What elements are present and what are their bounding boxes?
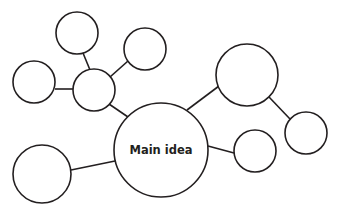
- edge-main-to-right-large: [187, 86, 219, 110]
- node-left: [13, 61, 55, 103]
- edge-main-to-bottom-left: [71, 161, 115, 170]
- node-top: [56, 12, 98, 54]
- edge-main-to-hub: [109, 104, 128, 117]
- node-right-small: [234, 130, 276, 172]
- node-hub-left: [73, 69, 115, 111]
- node-right-large: [216, 44, 278, 106]
- bubble-map-diagram: Main idea: [0, 0, 342, 212]
- main-idea-label: Main idea: [129, 143, 192, 157]
- edge-right-large-to-far-right: [269, 97, 290, 119]
- edge-main-to-right-small: [208, 146, 234, 153]
- node-bottom-left: [13, 145, 71, 203]
- node-upper-right-small: [124, 28, 166, 70]
- edge-hub-to-upper-right: [110, 61, 128, 77]
- edge-hub-to-top: [83, 53, 90, 70]
- node-far-right: [285, 112, 327, 154]
